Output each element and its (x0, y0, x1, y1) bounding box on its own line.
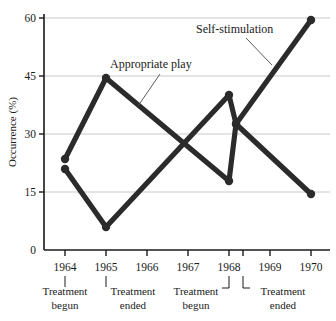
y-tick-label-30: 30 (25, 128, 37, 140)
chart-container: 60 45 30 15 0 Occurrence (%) 1964 1965 1… (0, 0, 336, 321)
series-line-appropriate-play (65, 20, 311, 227)
x-tick-label-1966: 1966 (136, 261, 159, 273)
y-tick-label-45: 45 (25, 70, 37, 82)
x-tick-label-1967: 1967 (177, 261, 200, 273)
data-point (225, 177, 233, 185)
x-tick-label-1965: 1965 (95, 261, 118, 273)
annotation-line1: Treatment (43, 285, 88, 297)
data-point (232, 120, 240, 128)
annotation-line2: ended (120, 299, 147, 311)
x-tick-label-1969: 1969 (259, 261, 282, 273)
series-label-leader (246, 38, 272, 65)
series-label-text: Self-stimulation (196, 22, 273, 36)
line-chart: 60 45 30 15 0 Occurrence (%) 1964 1965 1… (0, 0, 336, 321)
data-point (225, 91, 233, 99)
annotation-line2: begun (183, 299, 210, 311)
y-axis-title: Occurrence (%) (6, 97, 19, 167)
annotation-treatment-ended-1968: Treatment ended (261, 285, 306, 311)
series-label-leader (138, 74, 160, 106)
leader-treatment-begun-1968 (222, 276, 229, 288)
annotation-line2: ended (270, 299, 297, 311)
data-point (307, 190, 315, 198)
series-label-appropriate-play: Appropriate play (110, 57, 192, 106)
gridlines (44, 18, 330, 192)
annotation-leaders (65, 276, 250, 288)
x-tick-label-1970: 1970 (300, 261, 323, 273)
x-tick-label-1964: 1964 (54, 261, 77, 273)
y-tick-label-60: 60 (25, 12, 37, 24)
series-label-text: Appropriate play (110, 57, 192, 71)
annotation-treatment-begun-1968: Treatment begun (174, 285, 219, 311)
annotation-line1: Treatment (261, 285, 306, 297)
data-point (102, 223, 110, 231)
series-appropriate-play (61, 16, 315, 231)
leader-treatment-ended-1968 (243, 276, 250, 288)
data-point (102, 74, 110, 82)
y-tick-label-15: 15 (25, 186, 37, 198)
data-point (307, 16, 315, 24)
annotation-treatment-begun-1964: Treatment begun (43, 285, 88, 311)
y-tick-label-0: 0 (30, 244, 36, 256)
annotation-line1: Treatment (174, 285, 219, 297)
data-point (61, 155, 69, 163)
annotation-line1: Treatment (111, 285, 156, 297)
x-tick-marks (65, 250, 311, 256)
annotation-line2: begun (52, 299, 79, 311)
data-point (61, 165, 69, 173)
annotation-treatment-ended-1965: Treatment ended (111, 285, 156, 311)
series-label-self-stimulation: Self-stimulation (196, 22, 273, 65)
x-tick-label-1968: 1968 (218, 261, 241, 273)
